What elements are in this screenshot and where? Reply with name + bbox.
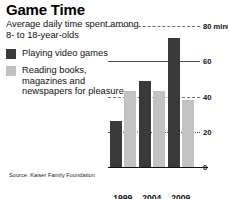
page-title: Game Time [6, 2, 85, 18]
source-note: Source: Kaiser Family Foundation [9, 172, 95, 178]
legend-swatch-reading [6, 66, 16, 76]
bar-2009-video-games [168, 38, 180, 167]
x-axis-tick-1999: 1999 [108, 193, 138, 199]
y-axis-tick-20: 20 [203, 127, 211, 136]
gridline-60 [108, 61, 200, 62]
x-axis-tick-2004: 2004 [137, 193, 167, 199]
plot-area: 020406080 minutes199920042009 [108, 20, 228, 190]
bar-2004-video-games [139, 81, 151, 167]
x-axis-tick-2009: 2009 [166, 193, 196, 199]
x-axis-baseline [108, 167, 208, 168]
y-axis-tick-80: 80 minutes [203, 22, 228, 31]
plot-inner: 020406080 minutes199920042009 [108, 20, 200, 190]
legend-label-video-games: Playing video games [22, 48, 108, 59]
bar-1999-video-games [110, 121, 122, 167]
y-axis-tick-40: 40 [203, 92, 211, 101]
legend-swatch-video-games [6, 49, 16, 59]
chart-figure: Game Time Average daily time spent among… [0, 0, 228, 199]
bar-1999-reading [124, 91, 136, 167]
bar-2009-reading [182, 100, 194, 167]
y-axis-tick-60: 60 [203, 57, 211, 66]
bar-2004-reading [153, 91, 165, 167]
gridline-80 [108, 26, 200, 27]
